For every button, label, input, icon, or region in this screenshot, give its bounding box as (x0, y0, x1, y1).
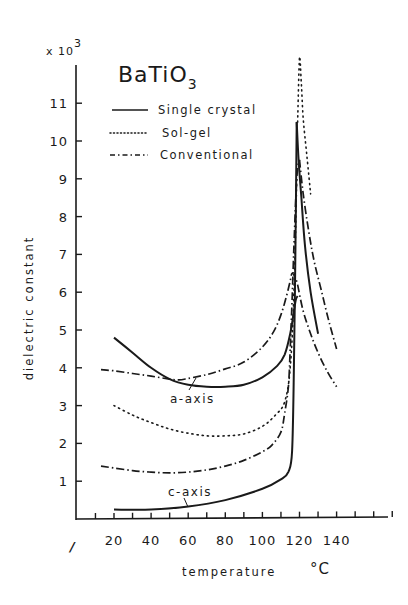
legend-item-conventional: Conventional (110, 148, 254, 162)
svg-text:temperature: temperature (182, 565, 276, 579)
y-tick-label: 10 (49, 134, 68, 149)
x-axis-unit: °C (310, 560, 330, 578)
x-tick-label: 120 (286, 533, 314, 548)
y-tick-label: 2 (59, 436, 68, 451)
chart-title: BaTiO3 (118, 62, 198, 92)
y-tick-label: 5 (59, 323, 68, 338)
svg-text:x 103: x 103 (46, 37, 82, 58)
y-tick-label: 3 (59, 399, 68, 414)
svg-text:Sol-gel: Sol-gel (162, 126, 212, 140)
series-conventional-lower (101, 160, 300, 473)
svg-text:BaTiO3: BaTiO3 (118, 62, 198, 92)
svg-text:a-axis: a-axis (170, 392, 215, 406)
x-axis-label: temperature °C (182, 560, 330, 579)
y-axis-ticks: 1234567891011 (49, 96, 82, 489)
x-tick-label: 60 (179, 533, 198, 548)
svg-text:Conventional: Conventional (160, 148, 254, 162)
y-axis-label: dielectric constant (22, 236, 36, 381)
series-conventional-upper-above-tc (298, 285, 337, 387)
x-tick-label: 80 (216, 533, 235, 548)
series-single-crystal-c-axis (114, 122, 297, 510)
x-axis-break-mark: / (68, 539, 76, 554)
svg-text:c-axis: c-axis (168, 485, 212, 499)
svg-text:Single crystal: Single crystal (158, 103, 257, 117)
data-curves (101, 57, 337, 510)
y-multiplier-label: x 103 (46, 37, 82, 58)
y-tick-label: 4 (59, 361, 68, 376)
dielectric-constant-chart: x 103 BaTiO3 Single crystal Sol-gel Conv… (0, 0, 408, 605)
y-tick-label: 8 (59, 210, 68, 225)
x-tick-label: 40 (142, 533, 161, 548)
y-axis: 1234567891011 (49, 65, 82, 520)
y-tick-label: 7 (59, 247, 68, 262)
x-tick-label: 140 (323, 533, 351, 548)
y-tick-label: 6 (59, 285, 68, 300)
series-single-crystal-a-axis (114, 296, 298, 387)
legend-item-single-crystal: Single crystal (112, 103, 257, 117)
series-conventional-upper (101, 273, 298, 380)
x-tick-label: 100 (248, 533, 276, 548)
y-tick-label: 1 (59, 474, 68, 489)
x-tick-label: 20 (105, 533, 124, 548)
legend: Single crystal Sol-gel Conventional (110, 103, 257, 162)
x-axis: 20406080100120140 / (68, 511, 392, 554)
y-tick-label: 11 (49, 96, 68, 111)
y-tick-label: 9 (59, 172, 68, 187)
svg-text:dielectric constant: dielectric constant (22, 236, 36, 381)
legend-item-sol-gel: Sol-gel (110, 126, 212, 140)
